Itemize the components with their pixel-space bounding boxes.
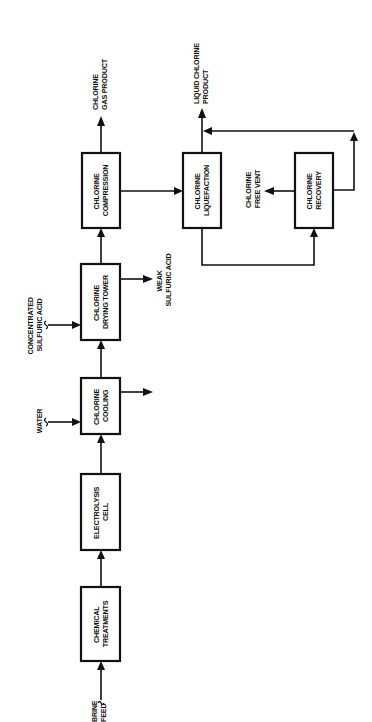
arrow-treatments-to-electrolysis [97, 550, 105, 587]
arrow-water-to-cooling [45, 418, 82, 426]
unit-label-line-2: DRYING TOWER [101, 274, 110, 329]
unit-label-line-1: CHLORINE [92, 173, 101, 209]
svg-text:CHLORINE COOLING: CHLORINE COOLING [92, 387, 110, 425]
label-liquid-chlorine-product: LIQUID CHLORINE PRODUCT [192, 41, 210, 104]
arrow-compression-to-liquefaction [120, 187, 183, 195]
line-liquefaction-to-recovery [202, 228, 318, 265]
arrow-cooling-outlet [120, 388, 153, 396]
unit-chlorine-cooling: CHLORINE COOLING [81, 378, 120, 434]
line-recovery-recycle-to-product [203, 127, 358, 190]
svg-text:CHLORINE LIQUEFACTION: CHLORINE LIQUEFACTION [193, 165, 211, 216]
unit-label-line-1: CHLORINE [305, 173, 314, 209]
tilde-icon [45, 321, 48, 329]
unit-label-line-2: CELL [101, 502, 110, 521]
unit-label-line-1: ELECTROLYSIS [92, 486, 101, 538]
arrow-recovery-to-free-vent [264, 187, 295, 195]
unit-chlorine-liquefaction: CHLORINE LIQUEFACTION [183, 153, 221, 228]
unit-label-line-2: RECOVERY [314, 171, 323, 210]
unit-label-line-1: CHLORINE [92, 389, 101, 425]
unit-chlorine-drying-tower: CHLORINE DRYING TOWER [81, 264, 120, 340]
label-concentrated-sulfuric-acid: CONCENTRATED SULFURIC ACID [26, 295, 44, 354]
label-weak-sulfuric-acid: WEAK SULFURIC ACID [155, 253, 173, 306]
arrow-acid-to-drying [45, 321, 82, 329]
chlorine-process-flow-diagram: CHEMICAL TREATMENTS ELECTROLYSIS CELL CH… [0, 0, 372, 722]
arrow-compression-to-gas-product [97, 116, 105, 153]
arrow-cooling-to-drying [97, 340, 105, 378]
unit-chlorine-recovery: CHLORINE RECOVERY [295, 153, 333, 228]
label-water: WATER [35, 408, 44, 433]
arrow-electrolysis-to-cooling [97, 434, 105, 474]
unit-chlorine-compression: CHLORINE COMPRESSION [82, 153, 120, 228]
unit-label-line-2: COOLING [101, 389, 110, 422]
unit-label-line-1: CHLORINE [193, 173, 202, 209]
unit-label-line-2: COMPRESSION [101, 165, 110, 217]
label-chlorine-gas-product: CHLORINE GAS PRODUCT [91, 58, 109, 110]
arrow-drying-to-compression [97, 228, 105, 264]
unit-label-line-1: CHLORINE [92, 285, 101, 321]
label-chlorine-free-vent: CHLORINE FREE VENT [244, 169, 262, 208]
unit-chemical-treatments: CHEMICAL TREATMENTS [81, 587, 120, 661]
unit-label-line-2: TREATMENTS [101, 600, 110, 647]
arrow-brine-to-treatments [97, 661, 105, 705]
unit-label-line-2: LIQUEFACTION [202, 165, 211, 216]
svg-text:CHLORINE COMPRESSION: CHLORINE COMPRESSION [92, 165, 110, 217]
unit-label-line-1: CHEMICAL [92, 606, 101, 643]
unit-electrolysis-cell: ELECTROLYSIS CELL [81, 474, 120, 550]
arrow-drying-to-weak-acid [120, 275, 153, 283]
svg-text:CHEMICAL TREATMENTS: CHEMICAL TREATMENTS [92, 600, 110, 647]
svg-text:CHLORINE RECOVERY: CHLORINE RECOVERY [305, 171, 323, 210]
tilde-icon [45, 418, 48, 426]
